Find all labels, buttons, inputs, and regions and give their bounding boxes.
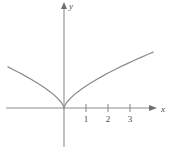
math-plot-figure: y x 1 2 3 (0, 0, 173, 154)
x-tick-label-3: 3 (128, 114, 133, 124)
x-axis-arrow-icon (149, 105, 157, 111)
y-axis-arrow-icon (61, 2, 67, 9)
x-tick-labels: 1 2 3 (84, 114, 133, 124)
y-axis-label: y (68, 1, 73, 11)
x-tick-label-2: 2 (106, 114, 111, 124)
y-axis-group: y (61, 1, 73, 147)
cusp-curve (8, 52, 153, 108)
x-tick-label-1: 1 (84, 114, 89, 124)
plot-canvas: y x 1 2 3 (0, 0, 173, 154)
x-axis-label: x (160, 104, 165, 114)
